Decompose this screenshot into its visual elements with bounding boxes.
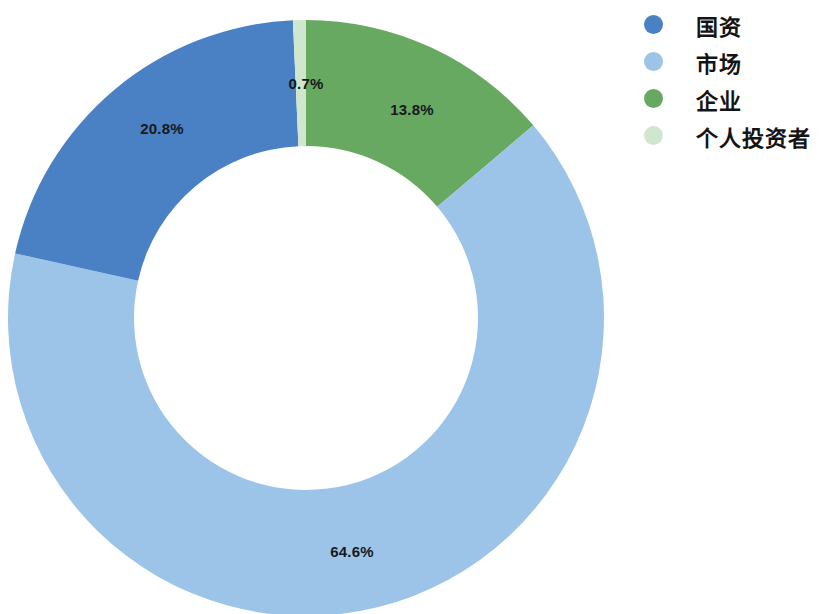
legend-item-state[interactable]: 国资 xyxy=(644,6,833,43)
legend-item-label: 市场 xyxy=(696,46,742,78)
chart-legend: 国资 市场 企业 个人投资者 xyxy=(644,6,833,154)
legend-swatch-icon xyxy=(644,89,663,108)
legend-item-label: 国资 xyxy=(696,9,742,41)
legend-item-label: 企业 xyxy=(696,83,742,115)
legend-swatch-icon xyxy=(644,52,663,71)
legend-item-enterprise[interactable]: 企业 xyxy=(644,80,833,117)
donut-chart-plot-area: 0.7% 13.8% 20.8% 64.6% xyxy=(0,0,620,614)
legend-swatch-icon xyxy=(644,126,663,145)
donut-slices xyxy=(8,20,604,614)
legend-item-label: 个人投资者 xyxy=(696,120,811,152)
donut-slice-state[interactable] xyxy=(15,20,298,280)
legend-swatch-icon xyxy=(644,15,663,34)
legend-item-personal[interactable]: 个人投资者 xyxy=(644,117,833,154)
donut-chart-svg xyxy=(0,0,620,614)
donut-chart-figure: 0.7% 13.8% 20.8% 64.6% 国资 市场 企业 个人投资者 xyxy=(0,0,833,614)
legend-item-market[interactable]: 市场 xyxy=(644,43,833,80)
